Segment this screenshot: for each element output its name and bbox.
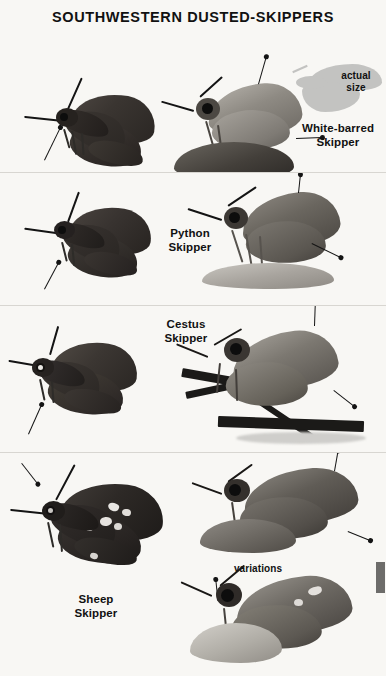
specimen-white-barred-dorsal [16, 68, 148, 172]
specimen-sheep-variation [190, 573, 370, 673]
antenna-icon [161, 101, 194, 112]
cast-shadow [236, 432, 366, 444]
antenna-icon [49, 326, 59, 355]
leg [39, 379, 46, 401]
eye [229, 484, 241, 496]
wing-spot [114, 523, 122, 530]
edge-tab-marker [376, 562, 385, 593]
species-label-sheep-skipper: Sheep Skipper [46, 593, 146, 620]
wing-spot [294, 599, 303, 606]
specimen-white-barred-lateral [166, 70, 306, 172]
species-label-white-barred-skipper: White-barred Skipper [292, 122, 384, 149]
eye [229, 212, 240, 223]
specimen-cestus-dorsal [6, 328, 146, 440]
antenna-icon [176, 343, 208, 358]
panel-white-barred-skipper: actual size [0, 26, 386, 172]
page-title: SOUTHWESTERN DUSTED-SKIPPERS [0, 9, 386, 25]
antenna-icon [192, 482, 223, 495]
eye [60, 113, 68, 121]
perch-substrate [202, 263, 334, 289]
actual-size-label: actual size [330, 70, 382, 93]
field-guide-plate: SOUTHWESTERN DUSTED-SKIPPERS actual size [0, 0, 386, 676]
perch-substrate [174, 142, 294, 172]
eye [202, 103, 213, 114]
panel-sheep-skipper: variations Sheep Skipper [0, 453, 386, 676]
grass-stem [218, 416, 364, 432]
eye [58, 226, 66, 234]
panel-python-skipper: Python Skipper [0, 173, 386, 305]
antenna-icon [187, 208, 222, 221]
eye [221, 589, 234, 602]
antenna-icon [181, 581, 213, 597]
species-label-cestus-skipper: Cestus Skipper [140, 318, 232, 345]
specimen-python-dorsal [18, 187, 148, 295]
specimen-sheep-lateral [196, 461, 376, 561]
species-label-python-skipper: Python Skipper [144, 227, 236, 254]
antenna-icon [199, 76, 223, 98]
panel-cestus-skipper: Cestus Skipper [0, 306, 386, 452]
eye [36, 363, 45, 372]
antenna-icon [227, 186, 256, 207]
eye [46, 506, 55, 515]
